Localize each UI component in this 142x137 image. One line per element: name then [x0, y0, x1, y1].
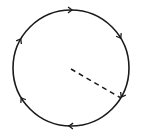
circle-diagram — [0, 0, 142, 137]
diagram-canvas — [0, 0, 142, 137]
circle-outline — [13, 10, 129, 126]
dashed-radius-line — [71, 69, 121, 98]
